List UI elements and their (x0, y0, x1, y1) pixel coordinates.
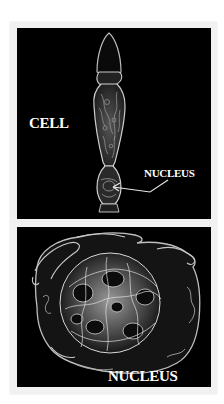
nucleus-label-bottom: NUCLEUS (108, 369, 178, 384)
cell-label: CELL (29, 116, 69, 131)
nucleus-label-top: NUCLEUS (144, 168, 194, 179)
nucleus-image-panel: NUCLEUS (17, 227, 211, 387)
nucleus-illustration (17, 227, 211, 387)
cell-image-panel: CELL NUCLEUS (17, 28, 211, 219)
